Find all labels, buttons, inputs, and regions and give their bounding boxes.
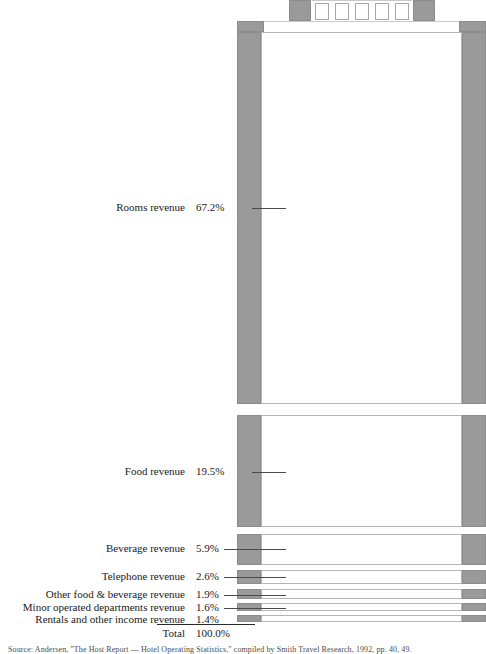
label-row-rooms-revenue: Rooms revenue 67.2%: [0, 201, 237, 214]
label-text: Food revenue: [125, 465, 185, 478]
leader-line-telephone-revenue: [224, 577, 286, 578]
label-text: Other food & beverage revenue: [46, 588, 185, 601]
total-percent: 100.0%: [185, 626, 237, 640]
leader-line-minor-operated-departments-revenue: [224, 608, 286, 609]
label-row-food-revenue: Food revenue 19.5%: [0, 465, 237, 478]
label-percent: 67.2%: [185, 201, 237, 214]
total-row: Total 100.0%: [0, 626, 237, 640]
label-row-beverage-revenue: Beverage revenue 5.9%: [0, 542, 237, 555]
total-divider: [157, 624, 255, 625]
label-text: Telephone revenue: [102, 570, 185, 583]
leader-line-beverage-revenue: [224, 549, 286, 550]
source-footnote: Source: Andersen, "The Host Report — Hot…: [8, 645, 478, 654]
revenue-building-chart: Rooms revenue 67.2% Food revenue 19.5% B…: [0, 0, 486, 654]
label-text: Rooms revenue: [116, 201, 185, 214]
leader-line-food-revenue: [252, 472, 286, 473]
leader-line-other-food-beverage-revenue: [224, 595, 286, 596]
leader-line-rooms-revenue: [252, 208, 286, 209]
label-row-telephone-revenue: Telephone revenue 2.6%: [0, 570, 237, 583]
total-label: Total: [163, 626, 185, 640]
label-row-other-food-beverage-revenue: Other food & beverage revenue 1.9%: [0, 588, 237, 601]
label-percent: 19.5%: [185, 465, 237, 478]
label-text: Beverage revenue: [106, 542, 185, 555]
label-column: Rooms revenue 67.2% Food revenue 19.5% B…: [0, 0, 486, 636]
